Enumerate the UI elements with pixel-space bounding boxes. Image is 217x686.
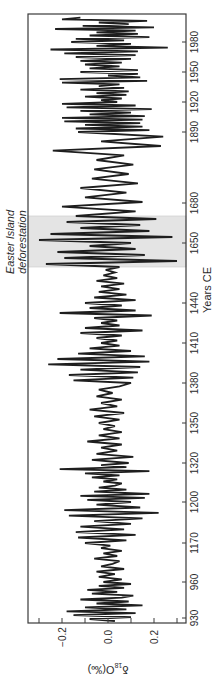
year-tick: 1920 <box>189 90 200 113</box>
year-tick: 1680 <box>189 191 200 214</box>
year-tick-label: 1410 <box>189 331 200 354</box>
year-tick-label: 1320 <box>189 451 200 474</box>
y-axis-title: δ18O(‰) <box>88 662 129 676</box>
value-tick: 0.2 <box>149 630 160 644</box>
year-tick-label: 1980 <box>189 30 200 53</box>
chart: 9309601170120013201350138014101440165016… <box>0 0 217 686</box>
value-tick-label: 0.0 <box>103 630 114 644</box>
year-tick: 1200 <box>189 490 200 513</box>
year-tick: 1650 <box>189 231 200 254</box>
year-tick: 1440 <box>189 291 200 314</box>
year-tick-label: 1950 <box>189 60 200 83</box>
year-tick-label: 1440 <box>189 291 200 314</box>
year-tick-label: 1650 <box>189 231 200 254</box>
year-tick-label: 1380 <box>189 371 200 394</box>
value-tick: −0.2 <box>57 627 68 647</box>
y-axis-title-text: δ18O(‰) <box>88 662 129 676</box>
year-tick: 1350 <box>189 411 200 434</box>
year-tick-label: 1890 <box>189 120 200 143</box>
shaded-region-annotation: Easter Island deforestation <box>4 209 28 274</box>
year-tick: 1950 <box>189 60 200 83</box>
x-axis-title-text: Years CE <box>201 267 213 313</box>
value-tick-label: 0.2 <box>149 630 160 644</box>
year-tick: 1170 <box>189 532 200 554</box>
value-tick-label: −0.2 <box>57 627 68 647</box>
isotope-superscript: 18 <box>114 662 122 669</box>
year-tick-label: 1680 <box>189 191 200 214</box>
year-tick-label: 1200 <box>189 490 200 513</box>
year-tick: 1320 <box>189 451 200 474</box>
year-tick: 930 <box>189 609 200 626</box>
year-tick-label: 960 <box>189 573 200 590</box>
annotation-line-1: Easter Island <box>4 209 16 274</box>
annotation-line-2: deforestation <box>16 210 28 274</box>
year-tick: 1380 <box>189 371 200 394</box>
year-tick: 1410 <box>189 331 200 354</box>
year-tick-label: 1350 <box>189 411 200 434</box>
year-tick: 960 <box>189 573 200 590</box>
year-tick-label: 1920 <box>189 90 200 113</box>
year-tick-label: 1170 <box>189 532 200 554</box>
year-tick: 1980 <box>189 30 200 53</box>
value-tick: 0.0 <box>103 630 114 644</box>
ylabel-rest: O(‰) <box>88 664 115 676</box>
year-tick: 1890 <box>189 120 200 143</box>
year-tick-label: 930 <box>189 609 200 626</box>
x-axis-title: Years CE <box>201 267 213 313</box>
